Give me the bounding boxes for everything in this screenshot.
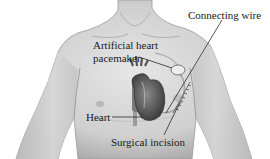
label-pacemaker-line1: Artificial heart xyxy=(93,39,158,51)
pacemaker-diagram: Connecting wire Artificial heart pacemak… xyxy=(0,0,270,159)
label-heart: Heart xyxy=(86,111,110,123)
pacemaker-device xyxy=(171,65,185,75)
label-pacemaker-line2: pacemaker xyxy=(93,52,141,64)
label-connecting-wire: Connecting wire xyxy=(188,9,261,21)
label-surgical-incision: Surgical incision xyxy=(111,136,185,148)
